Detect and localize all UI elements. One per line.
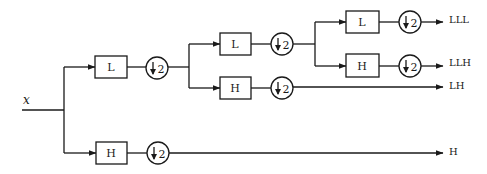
downsample-factor-D2: 2 [159,149,166,160]
output-label-LLL: LLL [449,15,469,25]
filter-label-L2: L [231,39,238,50]
downsample-factor-D5: 2 [411,18,418,29]
downsample-factor-D1: 2 [158,64,165,75]
filter-label-H1: H [106,148,116,159]
filter-bank-diagram: x L H L H L H 2 2 2 2 2 2 LLL LLH LH H [0,0,487,174]
filter-label-L3: L [358,17,365,28]
output-label-LH: LH [449,81,464,91]
output-label-LLH: LLH [449,58,471,68]
filter-label-L1: L [107,62,114,73]
downsample-factor-D6: 2 [411,62,418,73]
downsample-factor-D3: 2 [283,40,290,51]
output-label-H: H [449,147,458,157]
downsample-factor-D4: 2 [283,84,290,95]
input-label-x: x [23,94,30,106]
filter-label-H2: H [230,83,240,94]
filter-label-H3: H [357,61,367,72]
